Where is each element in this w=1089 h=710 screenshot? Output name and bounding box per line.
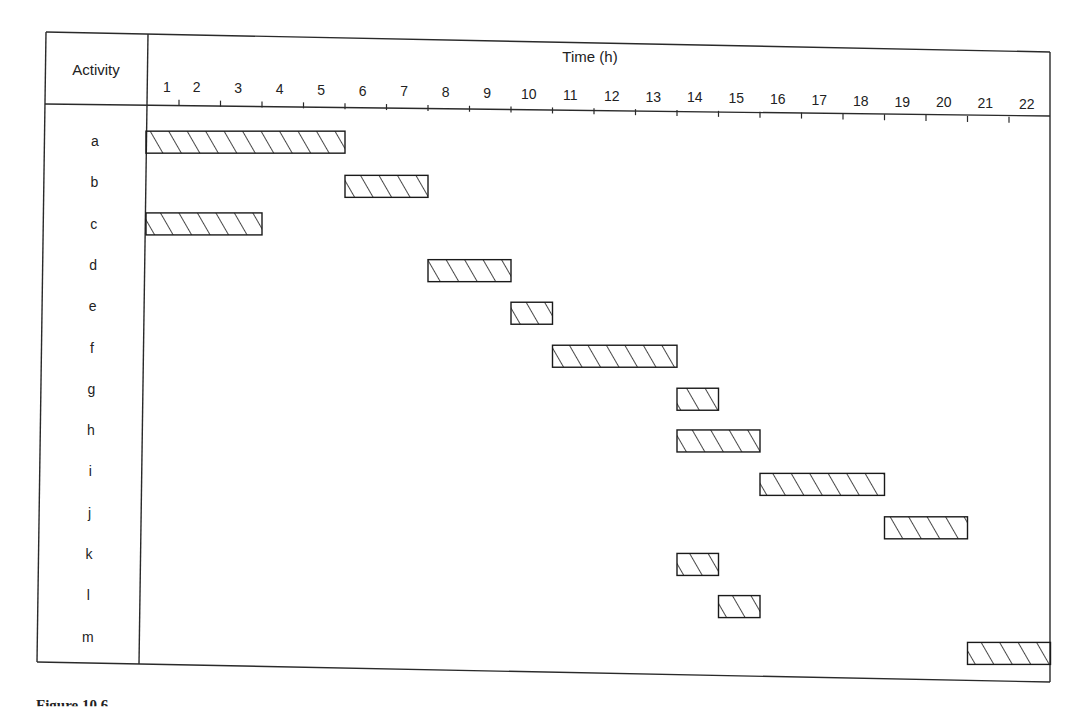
activity-bar-m bbox=[968, 642, 1051, 664]
time-axis-title: Time (h) bbox=[520, 48, 660, 65]
activity-label-m: m bbox=[73, 629, 103, 645]
time-tick-label: 3 bbox=[224, 80, 252, 96]
activity-bar-d bbox=[428, 260, 511, 282]
gantt-chart bbox=[0, 0, 1089, 710]
time-tick-label: 4 bbox=[266, 81, 294, 97]
table-frame bbox=[37, 32, 1050, 682]
activity-bar-b bbox=[345, 175, 428, 197]
time-tick-label: 10 bbox=[515, 86, 543, 102]
activity-label-e: e bbox=[78, 298, 108, 314]
time-tick-label: 15 bbox=[722, 90, 750, 106]
activity-bar-h bbox=[677, 430, 760, 452]
time-tick-label: 13 bbox=[639, 89, 667, 105]
time-tick-label: 5 bbox=[307, 82, 335, 98]
activity-label-b: b bbox=[79, 174, 109, 190]
activity-label-h: h bbox=[76, 422, 106, 438]
activity-bar-e bbox=[511, 302, 553, 324]
activity-bar-a bbox=[146, 131, 345, 153]
time-tick-label: 20 bbox=[930, 94, 958, 110]
time-tick-label: 21 bbox=[971, 95, 999, 111]
activity-label-k: k bbox=[74, 546, 104, 562]
activity-bar-j bbox=[885, 517, 968, 539]
time-axis-ticks bbox=[179, 100, 1009, 123]
activity-label-c: c bbox=[79, 216, 109, 232]
time-tick-label: 11 bbox=[556, 87, 584, 103]
activity-label-g: g bbox=[76, 381, 106, 397]
activity-label-j: j bbox=[75, 505, 105, 521]
activity-bar-l bbox=[719, 596, 761, 618]
time-tick-label: 17 bbox=[805, 92, 833, 108]
activity-label-d: d bbox=[78, 257, 108, 273]
time-tick-label: 16 bbox=[764, 91, 792, 107]
time-tick-label: 7 bbox=[390, 83, 418, 99]
activity-label-i: i bbox=[75, 463, 105, 479]
time-tick-label: 8 bbox=[432, 84, 460, 100]
time-tick-label: 18 bbox=[847, 93, 875, 109]
time-tick-label: 14 bbox=[681, 89, 709, 105]
activity-bar-i bbox=[760, 473, 885, 495]
time-tick-label: 19 bbox=[888, 94, 916, 110]
time-tick-label: 22 bbox=[1013, 96, 1041, 112]
time-tick-label: 2 bbox=[183, 79, 211, 95]
time-tick-label: 1 bbox=[153, 79, 181, 95]
activity-bar-c bbox=[146, 213, 262, 235]
activity-label-l: l bbox=[73, 587, 103, 603]
activity-label-a: a bbox=[80, 133, 110, 149]
time-tick-label: 9 bbox=[473, 85, 501, 101]
activity-header: Activity bbox=[48, 61, 144, 78]
activity-bar-g bbox=[677, 388, 719, 410]
time-tick-label: 6 bbox=[349, 83, 377, 99]
activity-bar-f bbox=[553, 345, 678, 367]
time-tick-label: 12 bbox=[598, 88, 626, 104]
gantt-bars bbox=[146, 131, 1051, 664]
activity-bar-k bbox=[677, 553, 719, 575]
activity-label-f: f bbox=[77, 340, 107, 356]
